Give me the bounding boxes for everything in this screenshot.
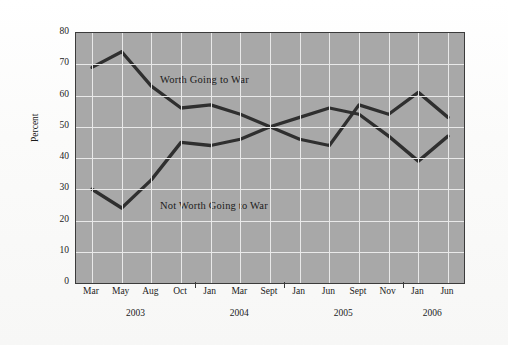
x-axis-tick-label: Jan <box>411 286 424 296</box>
chart-screenshot: Percent 80706050403020100 Worth Going to… <box>0 0 508 345</box>
x-axis-tick-label: Jun <box>322 286 335 296</box>
gridline-vertical <box>181 33 182 283</box>
x-axis-tick-label: Jan <box>292 286 305 296</box>
x-axis-year-label: 2003 <box>126 308 145 318</box>
x-axis-tick-label: Aug <box>142 286 158 296</box>
gridline-vertical <box>122 33 123 283</box>
y-axis-tick-label: 20 <box>47 214 69 224</box>
gridline-vertical <box>211 33 212 283</box>
plot-area: Worth Going to War Not Worth Going to Wa… <box>75 32 465 284</box>
y-axis-ticks: 80706050403020100 <box>45 0 69 345</box>
x-axis-ticks: MarMayAugOctJanMarSeptJanJunSeptNovJanJu… <box>75 286 463 304</box>
x-axis-tick-label: Nov <box>379 286 395 296</box>
gridline-vertical <box>151 33 152 283</box>
y-axis-tick-label: 0 <box>47 276 69 286</box>
x-axis-tick-label: Mar <box>83 286 99 296</box>
gridline-vertical <box>300 33 301 283</box>
gridline-vertical <box>389 33 390 283</box>
gridline-vertical <box>359 33 360 283</box>
x-axis-year-label: 2004 <box>230 308 249 318</box>
y-axis-tick-label: 10 <box>47 245 69 255</box>
y-axis-tick-label: 40 <box>47 151 69 161</box>
gridline-vertical <box>240 33 241 283</box>
x-axis-tick-label: Sept <box>261 286 278 296</box>
y-axis-label: Percent <box>30 114 40 143</box>
x-axis-tick-label: Oct <box>173 286 187 296</box>
gridline-vertical <box>270 33 271 283</box>
annotation-worth-going-to-war: Worth Going to War <box>160 74 249 85</box>
gridline-vertical <box>329 33 330 283</box>
y-axis-tick-label: 70 <box>47 57 69 67</box>
y-axis-tick-label: 30 <box>47 182 69 192</box>
x-axis-year-separator <box>284 282 285 288</box>
x-axis-year-groups: 2003200420052006 <box>75 308 463 326</box>
gridline-vertical <box>418 33 419 283</box>
y-axis-tick-label: 80 <box>47 26 69 36</box>
x-axis-tick-label: Mar <box>231 286 247 296</box>
x-axis-tick-label: Jan <box>203 286 216 296</box>
x-axis-tick-label: May <box>112 286 129 296</box>
x-axis-year-separator <box>195 282 196 288</box>
gridline-vertical <box>92 33 93 283</box>
x-axis-year-label: 2005 <box>334 308 353 318</box>
gridline-vertical <box>448 33 449 283</box>
annotation-not-worth-going-to-war: Not Worth Going to War <box>160 200 268 211</box>
x-axis-tick-label: Sept <box>350 286 367 296</box>
x-axis-year-label: 2006 <box>423 308 442 318</box>
y-axis-tick-label: 60 <box>47 89 69 99</box>
x-axis-tick-label: Jun <box>440 286 453 296</box>
x-axis-year-separator <box>403 282 404 288</box>
y-axis-tick-label: 50 <box>47 120 69 130</box>
